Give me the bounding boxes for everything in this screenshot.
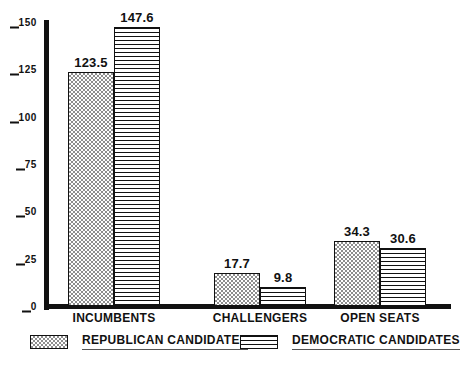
plot-area: 0255075100125150123.5147.617.79.834.330.…: [46, 22, 451, 306]
bar-democratic[interactable]: 30.6: [380, 248, 426, 306]
y-axis-tick-mark: [22, 311, 31, 313]
y-axis-tick-mark: [16, 216, 25, 218]
y-axis-tick-mark: [16, 263, 25, 265]
y-axis-tick-mark: [10, 121, 19, 123]
category-label: INCUMBENTS: [73, 311, 156, 325]
legend-item-republican: REPUBLICAN CANDIDATES: [30, 333, 248, 350]
bar-value-label: 9.8: [274, 270, 293, 285]
category-label: CHALLENGERS: [213, 311, 308, 325]
y-axis-tick-label: 25: [25, 253, 37, 264]
y-axis-tick-mark: [10, 74, 19, 76]
y-axis-tick-label: 50: [25, 206, 37, 217]
legend-label-democratic: DEMOCRATIC CANDIDATES: [292, 333, 460, 350]
y-axis-tick-label: 150: [19, 17, 38, 28]
legend-swatch-democratic-icon: [240, 335, 278, 349]
legend-label-republican: REPUBLICAN CANDIDATES: [82, 333, 248, 350]
y-axis-tick-label: 75: [25, 159, 37, 170]
legend-item-democratic: DEMOCRATIC CANDIDATES: [240, 333, 460, 350]
bar-value-label: 147.6: [120, 10, 154, 25]
bar-value-label: 34.3: [344, 224, 370, 239]
bar-group: 17.79.8: [214, 273, 306, 307]
bar-value-label: 123.5: [74, 55, 108, 70]
bar-group: 34.330.6: [334, 241, 426, 306]
y-axis-tick-label: 100: [19, 111, 38, 122]
category-label: OPEN SEATS: [340, 311, 419, 325]
bar-democratic[interactable]: 9.8: [260, 287, 306, 306]
bar-republican[interactable]: 17.7: [214, 273, 260, 307]
y-axis-tick-mark: [16, 169, 25, 171]
bar-democratic[interactable]: 147.6: [114, 27, 160, 306]
bar-chart: 0255075100125150123.5147.617.79.834.330.…: [0, 0, 473, 366]
chart-legend: REPUBLICAN CANDIDATES DEMOCRATIC CANDIDA…: [0, 333, 473, 363]
bar-republican[interactable]: 123.5: [68, 72, 114, 306]
bar-group: 123.5147.6: [68, 27, 160, 306]
legend-swatch-republican-icon: [30, 335, 68, 349]
y-axis-tick-mark: [10, 27, 19, 29]
bar-republican[interactable]: 34.3: [334, 241, 380, 306]
y-axis-tick-label: 125: [19, 64, 38, 75]
bar-value-label: 17.7: [224, 256, 250, 271]
bar-value-label: 30.6: [390, 231, 416, 246]
y-axis-tick-label: 0: [31, 301, 37, 312]
